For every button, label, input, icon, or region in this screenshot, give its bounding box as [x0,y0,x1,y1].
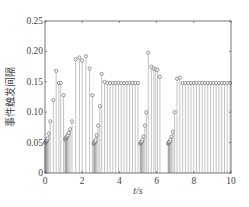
stem-marker [69,128,72,131]
stem-marker [49,120,52,123]
y-axis-label: 事件触发间隔 [4,67,16,127]
stem-marker [84,55,87,58]
x-tick-label: 2 [80,176,85,186]
stem-marker [169,138,172,141]
y-tick-label: 0.25 [26,16,43,26]
x-tick-label: 4 [117,176,122,186]
stem-marker [55,69,58,72]
stem-marker [156,68,159,71]
y-tick-label: 0 [38,168,43,178]
x-tick-label: 8 [191,176,196,186]
stem-marker [62,94,65,97]
stem-marker [95,134,98,137]
stem-marker [141,138,144,141]
stem-marker [52,98,55,101]
stem-marker [88,67,91,70]
plot-area [43,51,231,173]
y-tick-label: 0.10 [26,107,43,117]
stem-marker [59,81,62,84]
stem-marker [136,81,139,84]
stem-chart: 0246810 00.050.100.150.200.25 t/s 事件触发间隔 [0,0,249,207]
y-tick-label: 0.05 [26,138,43,148]
y-tick-label: 0.15 [26,77,43,87]
stem-marker [91,94,94,97]
stem-marker [96,124,99,127]
stem-marker [70,120,73,123]
stem-marker [143,124,146,127]
stem-marker [46,137,49,140]
stem-marker [142,135,145,138]
stem-marker [100,72,103,75]
stem-marker [78,56,81,59]
stem-marker [74,58,77,61]
x-tick-label: 10 [226,176,236,186]
stem-marker [173,111,176,114]
x-axis-label: t/s [133,185,143,196]
stem-marker [170,135,173,138]
stem-marker [47,132,50,135]
stem-marker [158,75,161,78]
stem-marker [145,111,148,114]
y-axis-ticks: 00.050.100.150.200.25 [26,16,231,178]
stem-marker [171,130,174,133]
stem-marker [81,59,84,62]
stem-marker [94,138,97,141]
stem-marker [178,76,181,79]
x-tick-label: 6 [154,176,159,186]
stem-marker [67,131,70,134]
stem-marker [98,105,101,108]
x-tick-label: 0 [43,176,48,186]
stem-marker [147,51,150,54]
x-axis-ticks: 0246810 [43,21,236,186]
y-tick-label: 0.20 [26,46,43,56]
